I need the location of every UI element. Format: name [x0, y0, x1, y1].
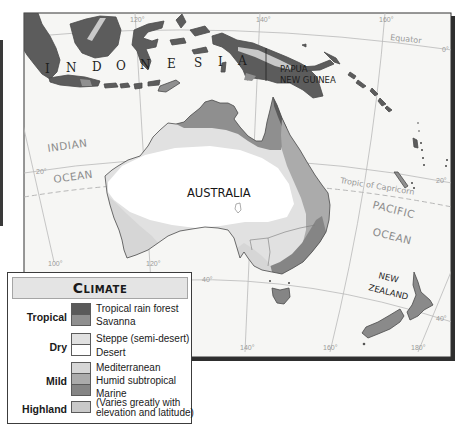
lat-20-left-label: 20° [36, 168, 47, 175]
lon-100-label: 100° [48, 260, 63, 267]
svg-text:D: D [92, 60, 102, 74]
svg-text:N: N [140, 58, 151, 72]
swatch-desert [71, 344, 91, 356]
legend-item-steppe: Steppe (semi-desert) [96, 333, 189, 344]
lon-140-bottom-label: 140° [240, 344, 255, 351]
svg-text:N: N [66, 61, 77, 75]
legend-group-dry: Dry [49, 341, 67, 353]
legend-group-tropical: Tropical [27, 311, 67, 323]
lat-40-left-label: 40° [202, 276, 213, 283]
svg-text:I: I [218, 55, 223, 69]
australia-label: AUSTRALIA [187, 186, 251, 200]
lon-160-top-label: 160° [379, 16, 394, 23]
lat-40-right-label: 40° [436, 315, 447, 322]
lon-140-top-label: 140° [256, 16, 271, 23]
svg-text:S: S [194, 56, 202, 70]
climate-legend: Climate Tropical Tropical rain forest Sa… [7, 272, 192, 424]
legend-title: Climate [12, 277, 188, 299]
legend-item-desert: Desert [96, 347, 125, 358]
svg-text:A: A [237, 54, 247, 68]
lon-160-bottom-label: 160° [323, 344, 338, 351]
lon-120-top-label: 120° [130, 16, 145, 23]
papua-label-line2: NEW GUINEA [280, 75, 336, 85]
svg-text:E: E [167, 57, 176, 71]
lat-0-label: 0° [442, 46, 449, 53]
svg-text:I: I [45, 62, 50, 76]
legend-item-savanna: Savanna [96, 316, 135, 327]
swatch-savanna [71, 314, 91, 326]
papua-label-line1: PAPUA [280, 64, 308, 74]
lon-120-bottom-label: 120° [146, 260, 161, 267]
swatch-highland [71, 401, 91, 413]
swatch-marine [71, 384, 91, 396]
legend-group-mild: Mild [46, 375, 67, 387]
legend-item-tropical-rain-forest: Tropical rain forest [96, 303, 178, 314]
legend-group-highland: Highland [22, 403, 67, 415]
lat-20-right-label: 20° [436, 177, 447, 184]
legend-item-highland-line2: elevation and latitude) [96, 407, 194, 418]
legend-item-mediterranean: Mediterranean [96, 362, 160, 373]
lon-180-label: 180° [411, 344, 426, 351]
legend-item-humid-subtropical: Humid subtropical [96, 375, 176, 386]
svg-text:O: O [116, 59, 126, 73]
